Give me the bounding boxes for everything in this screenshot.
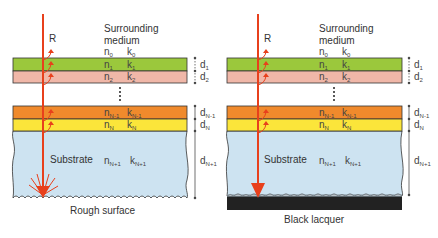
dN-1-label: dN-1 <box>414 108 429 119</box>
kN-label: kN <box>127 120 136 131</box>
caption-rough-surface: Rough surface <box>70 205 135 216</box>
nN-1-label: nN-1 <box>319 108 334 119</box>
layer-2 <box>227 71 402 83</box>
n1-label: n1 <box>104 60 113 71</box>
ellipsis-dots <box>119 87 121 101</box>
layer-n <box>13 119 187 131</box>
reflection-label: R <box>49 33 56 44</box>
substrate-label: Substrate <box>50 154 93 165</box>
n2-label: n2 <box>104 72 113 83</box>
thickness-markers <box>408 57 410 196</box>
k2-label: k2 <box>342 72 350 83</box>
medium-label-line1: Surrounding <box>319 23 373 34</box>
ellipsis-dots <box>333 87 335 101</box>
dN+1-label: dN+1 <box>414 156 431 167</box>
substrate-k-label: kN+1 <box>345 156 361 167</box>
substrate-n-label: nN+1 <box>319 156 336 167</box>
reflection-label: R <box>264 33 271 44</box>
nN-label: nN <box>104 120 114 131</box>
d2-label: d2 <box>200 72 209 83</box>
black-lacquer <box>227 196 402 210</box>
medium-label-line2: medium <box>104 35 140 46</box>
nN-1-label: nN-1 <box>104 108 119 119</box>
d2-label: d2 <box>414 72 423 83</box>
kN-label: kN <box>342 120 351 131</box>
k1-label: k1 <box>342 60 350 71</box>
dN-label: dN <box>200 120 210 131</box>
caption-black-lacquer: Black lacquer <box>284 214 344 225</box>
kN-1-label: kN-1 <box>342 108 357 119</box>
medium-label-line2: medium <box>319 35 355 46</box>
k0-label: k0 <box>342 47 350 58</box>
substrate-label: Substrate <box>264 154 307 165</box>
n2-label: n2 <box>319 72 328 83</box>
n1-label: n1 <box>319 60 328 71</box>
d1-label: d1 <box>414 60 423 71</box>
thickness-markers <box>194 57 196 199</box>
panel-black-lacquer: R Surrounding medium n0 k0 n1 k1 n2 k2 n… <box>219 0 438 238</box>
kN-1-label: kN-1 <box>127 108 142 119</box>
d1-label: d1 <box>200 60 209 71</box>
layer-n <box>227 119 402 131</box>
k2-label: k2 <box>127 72 135 83</box>
n0-label: n0 <box>104 47 113 58</box>
medium-label-line1: Surrounding <box>104 23 158 34</box>
dN+1-label: dN+1 <box>200 156 217 167</box>
layer-n-1 <box>227 106 402 119</box>
k0-label: k0 <box>127 47 135 58</box>
dN-1-label: dN-1 <box>200 108 215 119</box>
dN-label: dN <box>414 120 424 131</box>
k1-label: k1 <box>127 60 135 71</box>
layer-1 <box>227 58 402 71</box>
layer-1 <box>13 58 187 71</box>
substrate-n-label: nN+1 <box>104 156 121 167</box>
n0-label: n0 <box>319 47 328 58</box>
layer-n-1 <box>13 106 187 119</box>
substrate-k-label: kN+1 <box>130 156 146 167</box>
layer-2 <box>13 71 187 83</box>
panel-rough-surface: R Surrounding medium n0 k0 n1 k1 n2 k2 n… <box>0 0 219 238</box>
nN-label: nN <box>319 120 329 131</box>
